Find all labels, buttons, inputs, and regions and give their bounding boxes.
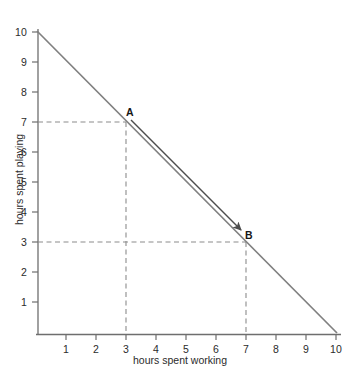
chart-canvas: 10 9 8 7 6 5 4 3 2 1 1 2 3 4 5 6 7 8 9 1… (0, 0, 350, 374)
x-axis-title: hours spent working (133, 354, 227, 366)
x-tick-label-3: 3 (123, 343, 129, 355)
point-label-b: B (245, 229, 253, 241)
y-axis-title: hours spent playing (13, 134, 25, 225)
x-tick-label-9: 9 (303, 343, 309, 355)
y-tick-label-7: 7 (8, 116, 27, 128)
chart-plot-area (0, 0, 350, 374)
movement-arrow (131, 120, 241, 230)
x-tick-label-10: 10 (330, 343, 342, 355)
point-label-a: A (126, 106, 134, 118)
guide-lines-point-a (38, 122, 126, 334)
y-tick-label-3: 3 (8, 236, 27, 248)
y-tick-label-10: 10 (8, 26, 27, 38)
x-tick-label-2: 2 (93, 343, 99, 355)
budget-line (37, 31, 337, 333)
x-tick-label-7: 7 (243, 343, 249, 355)
x-tick-label-1: 1 (63, 343, 69, 355)
y-axis-ticks (32, 32, 38, 302)
y-tick-label-8: 8 (8, 86, 27, 98)
y-tick-label-1: 1 (8, 296, 27, 308)
x-tick-label-8: 8 (273, 343, 279, 355)
guide-lines-point-b (38, 242, 246, 334)
y-tick-label-2: 2 (8, 266, 27, 278)
y-tick-label-9: 9 (8, 56, 27, 68)
